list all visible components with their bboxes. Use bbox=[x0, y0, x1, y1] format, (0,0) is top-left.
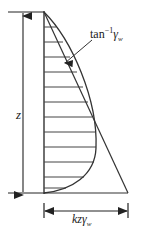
slope-annotation-label: tan−1γw bbox=[90, 27, 123, 43]
slope-exponent: −1 bbox=[105, 26, 114, 35]
slope-leader-line bbox=[65, 40, 92, 63]
width-dimension-label: kzγw bbox=[72, 213, 91, 228]
seepage-pressure-diagram: z tan−1γw kzγw bbox=[0, 0, 144, 236]
depth-dimension-label: z bbox=[16, 108, 21, 121]
slope-subscript: w bbox=[118, 35, 123, 43]
depth-extension-lines bbox=[8, 12, 44, 193]
width-subscript: w bbox=[87, 220, 92, 228]
slope-prefix: tan bbox=[90, 27, 105, 41]
width-prefix: kz bbox=[72, 212, 82, 226]
